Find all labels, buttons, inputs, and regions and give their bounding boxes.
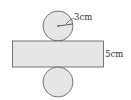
cylinder-net-diagram: 3cm 5cm (0, 0, 131, 100)
height-label: 5cm (105, 49, 123, 59)
bottom-circle (43, 67, 73, 97)
radius-label: 3cm (74, 12, 92, 22)
lateral-rectangle (13, 41, 104, 67)
center-dot (57, 25, 59, 27)
